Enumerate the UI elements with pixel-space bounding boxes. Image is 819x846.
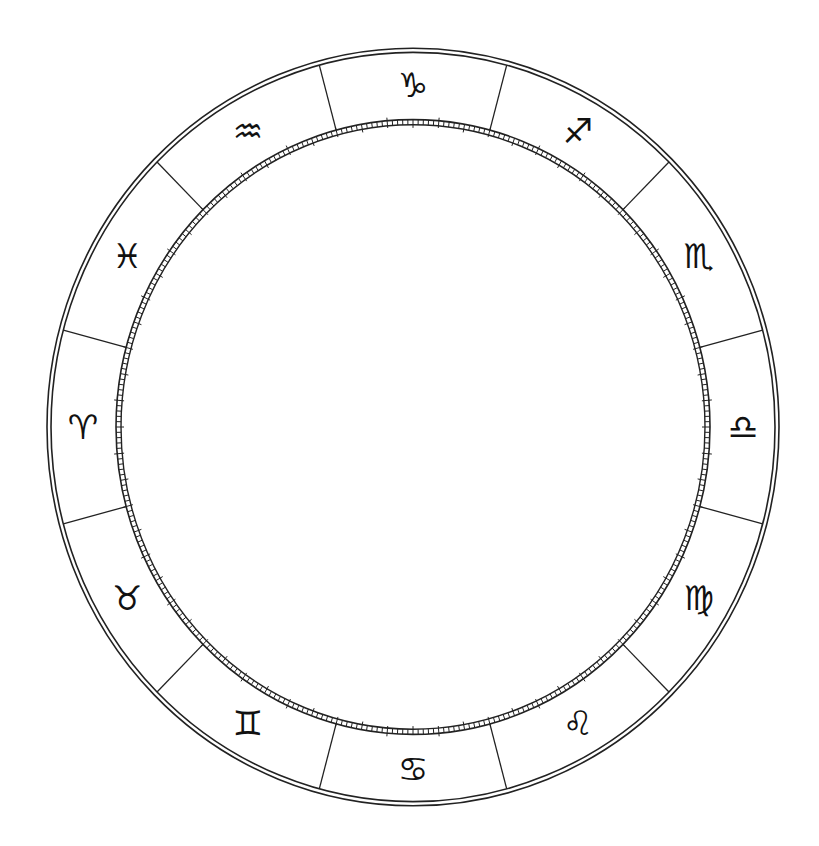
sign-divider-line (490, 724, 507, 789)
outer-ring (47, 48, 779, 806)
zodiac-leo-icon: ♌ (563, 703, 593, 743)
zodiac-pisces-icon: ♓ (112, 236, 142, 276)
sign-divider-line (700, 507, 763, 524)
degree-tick-ring (114, 118, 712, 737)
zodiac-gemini-icon: ♊ (233, 703, 263, 743)
sign-divider-line (700, 330, 763, 347)
sign-divider-line (319, 65, 336, 130)
zodiac-taurus-icon: ♉ (112, 578, 142, 618)
degree-ticks (114, 118, 712, 737)
zodiac-scorpio-icon: ♏ (684, 236, 714, 276)
sign-divider-line (63, 330, 126, 347)
tick-ring-line-inner (121, 125, 705, 729)
sign-divider-line (490, 65, 507, 130)
zodiac-aquarius-icon: ♒ (233, 111, 263, 151)
zodiac-libra-icon: ♎ (728, 407, 758, 447)
sign-divider-line (319, 724, 336, 789)
sign-divider-line (623, 644, 669, 692)
sign-divider-line (63, 507, 126, 524)
zodiac-glyphs: ♈♉♊♋♌♍♎♏♐♑♒♓ (68, 65, 758, 788)
zodiac-wheel: ♈♉♊♋♌♍♎♏♐♑♒♓ (0, 0, 819, 846)
sign-dividers (63, 65, 762, 789)
zodiac-cancer-icon: ♋ (398, 749, 428, 789)
sign-divider-line (157, 644, 203, 692)
zodiac-capricorn-icon: ♑ (398, 65, 428, 105)
sign-divider-line (623, 162, 669, 210)
zodiac-sagittarius-icon: ♐ (563, 111, 593, 151)
zodiac-aries-icon: ♈ (68, 407, 98, 447)
sign-divider-line (157, 162, 203, 210)
zodiac-virgo-icon: ♍ (684, 578, 714, 618)
